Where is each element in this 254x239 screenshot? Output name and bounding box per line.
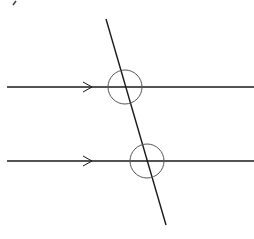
stray-mark [13,1,16,5]
transversal-line [106,19,166,225]
parallel-lines-diagram [0,0,254,239]
